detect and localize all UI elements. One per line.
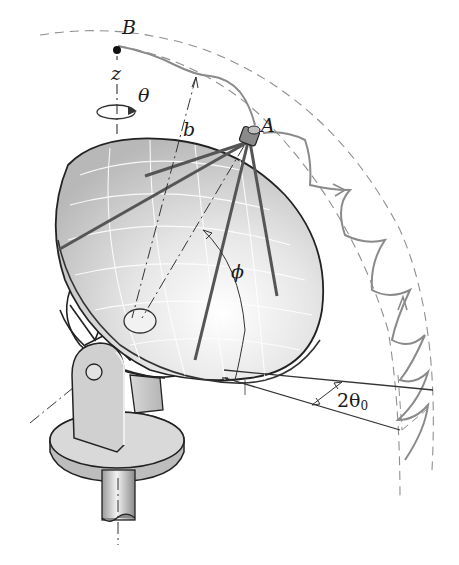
label-z-axis: z (111, 64, 121, 83)
shaft (102, 470, 135, 545)
pedestal-front-block (72, 343, 124, 452)
point-b (113, 46, 121, 54)
label-theta: θ (138, 86, 149, 105)
pivot-pin (86, 364, 102, 380)
label-b: b (183, 120, 195, 139)
label-point-b: B (122, 18, 136, 37)
dashed-lower-lines (398, 375, 432, 430)
rotation-arrow-head (128, 106, 137, 115)
label-2theta0-sub: 0 (361, 399, 369, 413)
label-phi: ϕ (231, 262, 244, 281)
label-point-a: A (261, 116, 275, 135)
pedestal-rear-block (130, 375, 163, 413)
feed-hole (124, 309, 156, 333)
antenna-diagram: B z θ b A ϕ 2θ0 (0, 0, 459, 565)
label-2theta0-main: 2θ (337, 389, 361, 411)
label-2theta0: 2θ0 (337, 391, 368, 412)
